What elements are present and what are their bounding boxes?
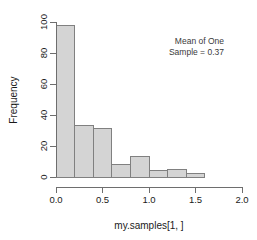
- x-tick-label-3: 1.5: [189, 194, 202, 205]
- histogram-svg: 100 80 60 40 20 0 0.0 0.5 1.0 1.5 2.0 Fr…: [0, 0, 257, 240]
- histogram-bar: [75, 126, 94, 177]
- histogram-plot: 100 80 60 40 20 0 0.0 0.5 1.0 1.5 2.0 Fr…: [0, 0, 257, 240]
- x-tick-label-2: 1.0: [142, 194, 155, 205]
- histogram-bar: [186, 174, 205, 177]
- y-tick-label-20: 20: [38, 141, 49, 152]
- y-axis-title: Frequency: [8, 76, 19, 123]
- histogram-bar: [56, 25, 75, 177]
- histogram-bar: [112, 165, 131, 177]
- y-axis-ticks: [50, 22, 56, 177]
- y-tick-label-80: 80: [38, 48, 49, 59]
- annotation-line-1: Mean of One: [175, 36, 224, 46]
- annotation-line-2: Sample = 0.37: [169, 47, 224, 57]
- x-tick-label-1: 0.5: [96, 194, 109, 205]
- histogram-bar: [168, 169, 187, 177]
- histogram-bar: [149, 171, 168, 177]
- histogram-bar: [130, 157, 149, 177]
- y-tick-label-40: 40: [38, 110, 49, 121]
- y-tick-label-0: 0: [38, 174, 49, 179]
- x-axis-title: my.samples[1, ]: [114, 220, 183, 231]
- histogram-bar: [93, 129, 112, 177]
- x-tick-label-0: 0.0: [49, 194, 62, 205]
- x-axis-ticks: [56, 187, 242, 193]
- y-tick-label-60: 60: [38, 79, 49, 90]
- y-tick-label-100: 100: [38, 14, 49, 30]
- x-tick-label-4: 2.0: [235, 194, 248, 205]
